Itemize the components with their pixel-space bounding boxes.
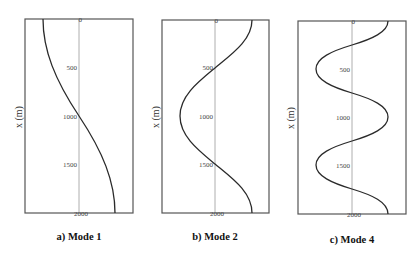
- tick-2000: 2000: [210, 210, 225, 218]
- tick-1000: 1000: [336, 114, 351, 122]
- mode-shapes-figure: 0 500 1000 1500 2000 x (m) a) Mode 1 0 5…: [0, 0, 418, 253]
- tick-500: 500: [340, 66, 351, 74]
- y-axis-label: x (m): [150, 106, 162, 128]
- tick-1500: 1500: [336, 162, 351, 170]
- tick-0: 0: [215, 17, 219, 25]
- tick-1000: 1000: [199, 113, 214, 121]
- y-axis-label: x (m): [13, 106, 25, 128]
- tick-2000: 2000: [347, 211, 362, 219]
- panel-mode-4: 0 500 1000 1500 2000 x (m) c) Mode 4: [285, 18, 406, 247]
- tick-1500: 1500: [199, 161, 214, 169]
- mode-curve: [180, 20, 252, 213]
- y-axis-label: x (m): [285, 107, 297, 129]
- panel-mode-2: 0 500 1000 1500 2000 x (m) b) Mode 2: [150, 17, 269, 244]
- panel-caption: c) Mode 4: [330, 234, 375, 246]
- tick-2000: 2000: [74, 210, 89, 218]
- tick-500: 500: [67, 64, 78, 72]
- panel-caption: a) Mode 1: [57, 231, 102, 243]
- plot-frame: [162, 20, 269, 213]
- tick-500: 500: [203, 64, 214, 72]
- tick-1000: 1000: [63, 113, 78, 121]
- panel-mode-1: 0 500 1000 1500 2000 x (m) a) Mode 1: [13, 16, 133, 244]
- panel-caption: b) Mode 2: [192, 231, 238, 243]
- tick-0: 0: [79, 16, 83, 24]
- tick-1500: 1500: [63, 161, 78, 169]
- tick-0: 0: [352, 18, 356, 26]
